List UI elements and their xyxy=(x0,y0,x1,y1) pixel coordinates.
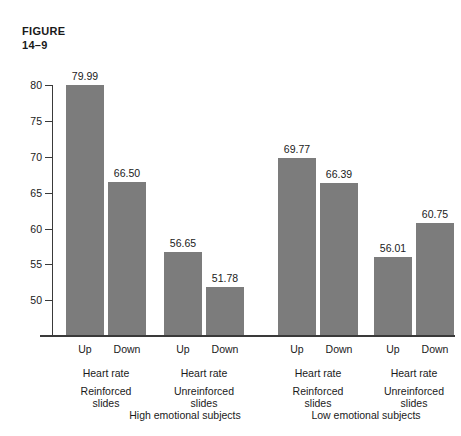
condition-label-line1: Unreinforced xyxy=(359,385,461,397)
measure-label: Heart rate xyxy=(263,367,373,379)
y-tick-label: 80 xyxy=(22,80,42,90)
bar xyxy=(320,183,358,335)
bar-value-label: 69.77 xyxy=(272,144,322,155)
bar-value-label: 60.75 xyxy=(410,209,460,220)
y-axis-line xyxy=(52,85,53,336)
bar-value-label: 56.01 xyxy=(368,243,418,254)
condition-label-line2: slides xyxy=(51,397,161,409)
group-label: High emotional subjects xyxy=(85,409,285,421)
y-tick-label: 60 xyxy=(22,224,42,234)
measure-label: Heart rate xyxy=(149,367,259,379)
x-axis-line xyxy=(40,335,455,337)
bar xyxy=(374,257,412,335)
y-tick-mark xyxy=(45,157,53,158)
bar xyxy=(164,252,202,335)
condition-label: Reinforced slides xyxy=(263,385,373,409)
group-label: Low emotional subjects xyxy=(266,409,461,421)
bar-value-label: 51.78 xyxy=(200,273,250,284)
bar-chart: 80 75 70 65 60 55 50 79.99 66.50 56.65 5… xyxy=(0,0,461,436)
bar xyxy=(206,287,244,335)
y-tick-mark xyxy=(45,85,53,86)
bar-value-label: 66.39 xyxy=(314,169,364,180)
condition-label-line1: Reinforced xyxy=(263,385,373,397)
condition-label-line2: slides xyxy=(149,397,259,409)
condition-label-line1: Unreinforced xyxy=(149,385,259,397)
bar-direction-label: Down xyxy=(410,343,460,355)
y-tick-mark xyxy=(45,229,53,230)
condition-label-line1: Reinforced xyxy=(51,385,161,397)
y-tick-mark xyxy=(45,193,53,194)
y-tick-label: 50 xyxy=(22,295,42,305)
condition-label: Unreinforced slides xyxy=(359,385,461,409)
condition-label: Unreinforced slides xyxy=(149,385,259,409)
bar-value-label: 66.50 xyxy=(102,168,152,179)
bar-direction-label: Down xyxy=(102,343,152,355)
measure-label: Heart rate xyxy=(359,367,461,379)
bar xyxy=(66,85,104,335)
bar xyxy=(108,182,146,335)
bar-value-label: 79.99 xyxy=(60,71,110,82)
bar xyxy=(278,158,316,335)
condition-label-line2: slides xyxy=(359,397,461,409)
condition-label: Reinforced slides xyxy=(51,385,161,409)
y-tick-mark xyxy=(45,264,53,265)
measure-label: Heart rate xyxy=(51,367,161,379)
y-tick-label: 65 xyxy=(22,188,42,198)
bar xyxy=(416,223,454,335)
y-tick-mark xyxy=(45,300,53,301)
bar-value-label: 56.65 xyxy=(158,238,208,249)
bar-direction-label: Down xyxy=(314,343,364,355)
y-tick-label: 70 xyxy=(22,152,42,162)
y-tick-label: 55 xyxy=(22,259,42,269)
y-tick-label: 75 xyxy=(22,116,42,126)
bar-direction-label: Down xyxy=(200,343,250,355)
y-tick-mark xyxy=(45,121,53,122)
condition-label-line2: slides xyxy=(263,397,373,409)
